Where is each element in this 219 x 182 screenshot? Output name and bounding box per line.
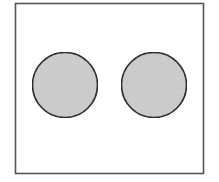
right-circle [122,53,187,118]
diagram-canvas [0,0,219,182]
left-circle [33,53,98,118]
